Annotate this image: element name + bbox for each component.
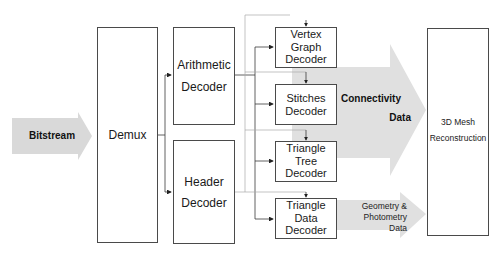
photometry-line: Photometry [345,212,407,223]
decoder-line: Decoder [275,167,337,180]
decoder-line: Decoder [275,53,337,66]
decoder-line: Decoder [275,105,337,118]
demux-label: Demux [97,128,158,142]
geometry-label: Geometry & Photometry Data [345,201,407,234]
tree-line: Tree [275,155,337,168]
data-line: Data [345,223,407,234]
connectivity-label-1: Connectivity [341,93,411,105]
mesh-reconstruction-block [427,28,489,236]
stitches-decoder-label: Stitches Decoder [275,92,337,117]
diagram-canvas [0,0,499,254]
triangle-data-decoder-label: Triangle Data Decoder [275,199,337,237]
demux-bus [157,75,171,192]
geometry-line: Geometry & [345,201,407,212]
stitches-line: Stitches [275,92,337,105]
triangle-tree-decoder-label: Triangle Tree Decoder [275,142,337,180]
decoder-line: Decoder [275,224,337,237]
connectivity-label-2: Data [341,112,411,124]
mesh-reconstruction-label-1: 3D Mesh [427,117,489,127]
triangle-line: Triangle [275,142,337,155]
header-decoder-block [173,140,235,244]
vertex-graph-decoder-label: Vertex Graph Decoder [275,28,337,66]
triangle-line: Triangle [275,199,337,212]
header-decoder-label-2: Decoder [173,196,235,210]
bitstream-label: Bitstream [20,130,84,142]
vertex-line: Vertex [275,28,337,41]
data-line: Data [275,212,337,225]
mesh-reconstruction-label-2: Reconstruction [427,133,489,143]
header-decoder-label-1: Header [173,175,235,189]
arith-bus [235,47,273,219]
arithmetic-decoder-label-2: Decoder [173,80,235,94]
graph-line: Graph [275,41,337,54]
arithmetic-decoder-label-1: Arithmetic [173,58,235,72]
arithmetic-decoder-block [173,27,235,125]
